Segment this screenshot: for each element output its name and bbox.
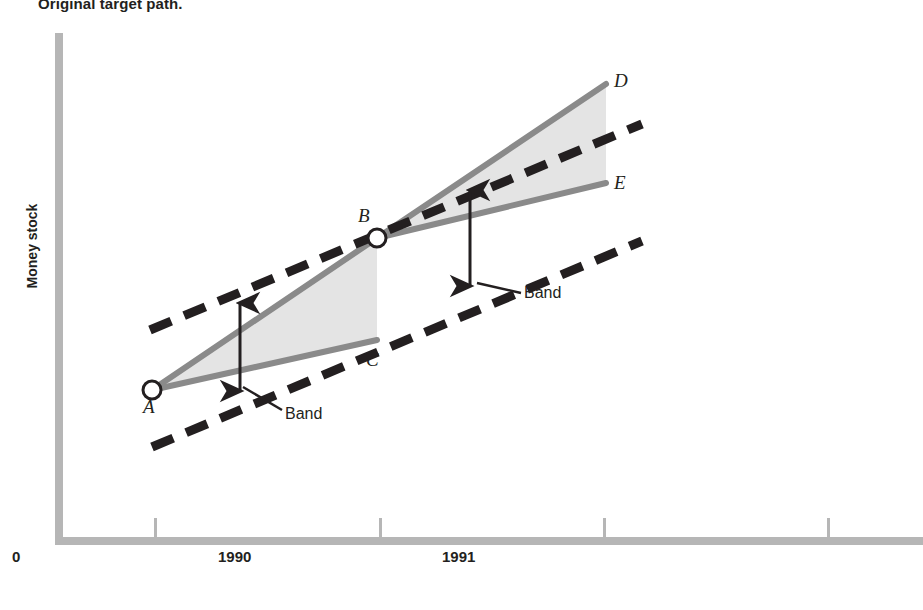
point-label-e: E bbox=[614, 172, 626, 194]
y-axis-line bbox=[55, 33, 63, 545]
chart-plot-area bbox=[0, 0, 923, 610]
x-axis-line bbox=[55, 537, 923, 545]
axes-group bbox=[55, 33, 923, 545]
band-upper-line bbox=[150, 124, 642, 330]
x-tick-label-1990: 1990 bbox=[218, 548, 251, 565]
x-tick-4 bbox=[827, 518, 830, 540]
point-label-b: B bbox=[358, 205, 370, 227]
band-annotation-label-upper: Band bbox=[524, 284, 561, 302]
point-marker-b bbox=[368, 229, 386, 247]
x-tick-3 bbox=[603, 518, 606, 540]
point-label-d: D bbox=[614, 70, 628, 92]
point-label-a: A bbox=[143, 396, 155, 418]
x-tick-label-1991: 1991 bbox=[442, 548, 475, 565]
band-annotation-label-lower: Band bbox=[285, 405, 322, 423]
band-leader-upper bbox=[477, 283, 521, 293]
point-label-c: C bbox=[366, 349, 379, 371]
x-axis-ticks bbox=[154, 518, 830, 540]
x-tick-2 bbox=[379, 518, 382, 540]
x-tick-1 bbox=[154, 518, 157, 540]
axis-origin-label: 0 bbox=[12, 548, 20, 565]
figure-container: Original target path. Money stock bbox=[0, 0, 923, 610]
